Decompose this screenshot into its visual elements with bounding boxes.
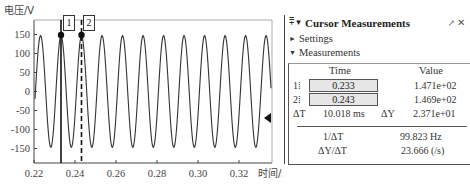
cursor-1-point <box>58 32 64 38</box>
x-axis-title: 时间/s <box>258 167 282 179</box>
y-axis-title: 电压/V <box>4 4 34 16</box>
divider <box>297 126 467 127</box>
y-tick-label: -100 <box>11 124 30 135</box>
collapse-down-icon: ▼ <box>289 49 296 57</box>
x-tick-label: 0.26 <box>107 168 125 179</box>
y-tick-label: -150 <box>11 143 30 154</box>
cursor-1-label: 1⁞ <box>293 80 301 91</box>
cursor-1-value: 1.471e+02 <box>414 80 457 91</box>
settings-label: Settings <box>299 33 333 44</box>
x-tick-label: 0.24 <box>66 168 85 179</box>
x-tick-label: 0.22 <box>25 168 43 179</box>
undock-icon[interactable]: ↗ <box>447 18 455 28</box>
delta-t-value: 10.018 ms <box>323 108 365 119</box>
slope-value: 23.666 (/s) <box>401 145 444 156</box>
cursor-2-time-input[interactable]: 0.243 <box>309 93 378 106</box>
x-tick-label: 0.28 <box>148 168 166 179</box>
level-marker <box>264 113 271 123</box>
voltage-plot[interactable]: 150100500-50-100-150 0.220.240.260.280.3… <box>0 0 282 185</box>
panel-title: Cursor Measurements <box>305 17 410 29</box>
panel-header: ⩱ ▾ Cursor Measurements ↗ ✕ <box>289 17 467 31</box>
cursor-2-value: 1.469e+02 <box>414 94 457 105</box>
cursor-2-point <box>78 32 84 38</box>
measurements-table: Time Value 1⁞ 0.233 1.471e+02 2⁞ 0.243 1… <box>288 63 470 165</box>
expand-right-icon: ► <box>289 35 296 43</box>
inverse-delta-t-value: 99.823 Hz <box>400 131 442 142</box>
y-tick-label: -50 <box>16 105 30 116</box>
time-column-header: Time <box>329 65 351 76</box>
value-column-header: Value <box>419 65 443 76</box>
measurements-section-toggle[interactable]: ▼Measurements <box>289 47 360 58</box>
y-tick-label: 150 <box>14 29 30 40</box>
cursor-1-time-input[interactable]: 0.233 <box>309 79 378 92</box>
x-tick-label: 0.32 <box>230 168 248 179</box>
settings-section-toggle[interactable]: ►Settings <box>289 33 333 44</box>
y-tick-label: 100 <box>14 48 30 59</box>
x-tick-label: 0.30 <box>189 168 207 179</box>
delta-y-value: 2.371e+01 <box>413 108 456 119</box>
close-icon[interactable]: ✕ <box>457 17 465 28</box>
cursor-1-tag[interactable]: 1 <box>63 15 75 31</box>
panel-menu-icon[interactable]: ⩱ ▾ <box>289 17 301 28</box>
cursor-2-label: 2⁞ <box>293 94 301 105</box>
cursor-measurements-panel: ⩱ ▾ Cursor Measurements ↗ ✕ ►Settings ▼M… <box>284 15 470 164</box>
measurements-label: Measurements <box>299 47 360 58</box>
plot-canvas: 150100500-50-100-150 0.220.240.260.280.3… <box>0 0 282 185</box>
y-tick-label: 50 <box>20 67 31 78</box>
delta-y-label: ΔY <box>381 108 395 119</box>
slope-label: ΔY/ΔT <box>318 145 347 156</box>
cursor-2-tag[interactable]: 2 <box>83 15 95 31</box>
delta-t-label: ΔT <box>293 108 306 119</box>
inverse-delta-t-label: 1/ΔT <box>323 131 343 142</box>
y-tick-label: 0 <box>25 86 30 97</box>
